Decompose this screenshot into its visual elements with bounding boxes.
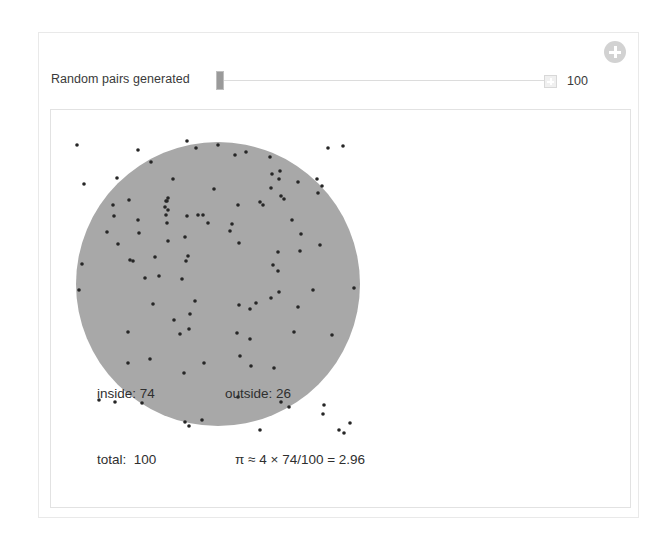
random-point <box>116 242 120 246</box>
random-point <box>171 177 175 181</box>
readout-line-2: total: 100π ≈ 4 × 74/100 = 2.96 <box>67 427 365 449</box>
random-pairs-slider-row: Random pairs generated 100 <box>51 69 626 93</box>
random-point <box>163 205 167 209</box>
random-point <box>201 213 205 217</box>
random-point <box>248 307 252 311</box>
random-point <box>269 186 273 190</box>
random-point <box>166 196 170 200</box>
total-count: total: 100 <box>97 449 225 471</box>
random-point <box>194 146 198 150</box>
random-point <box>230 222 234 226</box>
random-point <box>228 229 232 233</box>
random-point <box>244 150 248 154</box>
random-point <box>180 277 184 281</box>
slider-value-display: 100 <box>567 74 588 88</box>
random-point <box>237 303 241 307</box>
random-point <box>277 290 281 294</box>
random-point <box>166 239 170 243</box>
random-point <box>143 276 147 280</box>
random-point <box>254 301 258 305</box>
random-point <box>270 172 274 176</box>
inside-count: inside: 74 <box>97 383 225 405</box>
random-point <box>166 208 170 212</box>
random-point <box>316 191 320 195</box>
random-point <box>236 203 240 207</box>
random-point <box>196 213 200 217</box>
random-point <box>115 176 119 180</box>
random-point <box>75 143 79 147</box>
random-point <box>290 218 294 222</box>
slider-track[interactable] <box>222 80 544 81</box>
random-point <box>206 221 210 225</box>
random-point <box>151 302 155 306</box>
stepper-plus-vertical-stroke <box>550 78 552 85</box>
random-point <box>296 180 300 184</box>
random-point <box>279 194 283 198</box>
random-point <box>212 187 216 191</box>
statistics-readout: inside: 74outside: 26 total: 100π ≈ 4 × … <box>67 317 365 493</box>
random-point <box>183 235 187 239</box>
random-point <box>165 221 169 225</box>
random-point <box>315 177 319 181</box>
random-point <box>352 286 356 290</box>
value-stepper-group: 100 <box>544 71 588 91</box>
random-point <box>111 203 115 207</box>
random-point <box>233 153 237 157</box>
random-point <box>278 169 282 173</box>
random-point <box>296 305 300 309</box>
outside-count: outside: 26 <box>225 383 291 405</box>
random-pairs-slider[interactable] <box>214 69 544 93</box>
random-point <box>131 259 135 263</box>
random-point <box>299 232 303 236</box>
random-point <box>271 263 275 267</box>
random-point <box>185 139 189 143</box>
random-point <box>186 254 190 258</box>
random-point <box>80 262 84 266</box>
random-point <box>237 241 241 245</box>
random-point <box>318 243 322 247</box>
readout-line-1: inside: 74outside: 26 <box>67 361 365 383</box>
random-point <box>82 182 86 186</box>
random-point <box>320 184 324 188</box>
slider-handle[interactable] <box>216 71 224 90</box>
random-point <box>269 296 273 300</box>
random-point <box>216 143 220 147</box>
random-point <box>282 197 286 201</box>
random-point <box>193 299 197 303</box>
random-point <box>277 177 281 181</box>
random-point <box>268 155 272 159</box>
random-point <box>136 148 140 152</box>
random-point <box>137 231 141 235</box>
random-point <box>258 200 262 204</box>
random-point <box>276 250 280 254</box>
random-point <box>157 274 161 278</box>
random-point <box>298 249 302 253</box>
monte-carlo-simulation-panel: Random pairs generated 100 inside: 74out… <box>38 32 639 518</box>
random-point <box>127 198 131 202</box>
random-point <box>188 312 192 316</box>
plus-box-icon[interactable] <box>544 75 557 88</box>
random-point <box>136 218 140 222</box>
random-point <box>164 213 168 217</box>
plus-circle-icon[interactable] <box>604 41 626 63</box>
random-point <box>105 230 109 234</box>
random-point <box>341 144 345 148</box>
random-point <box>149 160 153 164</box>
random-point <box>112 214 116 218</box>
random-point <box>261 203 265 207</box>
random-point <box>153 255 157 259</box>
random-point <box>276 269 280 273</box>
pi-estimate-expression: π ≈ 4 × 74/100 = 2.96 <box>225 449 365 471</box>
plus-vertical-stroke <box>614 46 617 58</box>
simulation-plot-area: inside: 74outside: 26 total: 100π ≈ 4 × … <box>50 109 631 508</box>
control-bar: Random pairs generated 100 <box>39 33 638 101</box>
slider-label: Random pairs generated <box>51 72 190 86</box>
random-point <box>77 288 81 292</box>
random-point <box>185 214 189 218</box>
random-point <box>184 259 188 263</box>
random-point <box>326 146 330 150</box>
random-point <box>311 288 315 292</box>
